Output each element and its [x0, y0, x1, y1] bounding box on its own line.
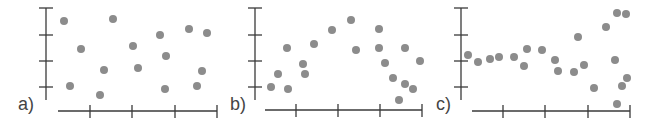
data-point: [554, 67, 562, 75]
data-point: [274, 70, 282, 78]
data-point: [551, 56, 559, 64]
data-point: [156, 31, 164, 39]
data-point: [66, 82, 74, 90]
data-point: [301, 70, 309, 78]
data-point: [100, 66, 108, 74]
data-point: [523, 45, 531, 53]
data-point: [129, 42, 137, 50]
data-point: [203, 29, 211, 37]
data-point: [267, 83, 275, 91]
data-point: [495, 53, 503, 61]
panel-label-a: a): [18, 94, 34, 115]
data-point: [395, 96, 403, 104]
data-point: [590, 84, 598, 92]
data-point: [574, 33, 582, 41]
data-point: [193, 82, 201, 90]
data-point: [134, 64, 142, 72]
panel-label-b: b): [230, 94, 246, 115]
data-point: [613, 9, 621, 17]
data-point: [510, 53, 518, 61]
data-point: [60, 17, 68, 25]
data-point: [161, 85, 169, 93]
data-point: [538, 46, 546, 54]
data-point: [570, 68, 578, 76]
scatter-plots-svg: [0, 0, 650, 130]
data-point: [310, 40, 318, 48]
data-point: [486, 55, 494, 63]
data-point: [198, 67, 206, 75]
data-point: [283, 44, 291, 52]
data-point: [299, 60, 307, 68]
data-point: [611, 56, 619, 64]
data-point: [409, 85, 417, 93]
data-point: [389, 74, 397, 82]
data-point: [375, 44, 383, 52]
data-point: [464, 51, 472, 59]
data-point: [613, 100, 621, 108]
scatter-panel-a: [39, 8, 217, 118]
data-point: [328, 26, 336, 34]
data-point: [109, 15, 117, 23]
data-point: [520, 62, 528, 70]
data-point: [622, 10, 630, 18]
data-point: [401, 80, 409, 88]
data-point: [352, 46, 360, 54]
data-point: [185, 25, 193, 33]
data-point: [416, 57, 424, 65]
scatter-figure: a) b) c): [0, 0, 650, 130]
scatter-panel-b: [248, 8, 424, 117]
data-point: [77, 45, 85, 53]
data-point: [623, 74, 631, 82]
data-point: [284, 85, 292, 93]
scatter-panel-c: [454, 8, 631, 118]
data-point: [580, 61, 588, 69]
data-point: [96, 91, 104, 99]
panel-label-c: c): [436, 94, 451, 115]
data-point: [602, 23, 610, 31]
data-point: [618, 82, 626, 90]
data-point: [381, 59, 389, 67]
data-point: [401, 44, 409, 52]
data-point: [347, 16, 355, 24]
data-point: [375, 25, 383, 33]
data-point: [162, 52, 170, 60]
data-point: [474, 58, 482, 66]
